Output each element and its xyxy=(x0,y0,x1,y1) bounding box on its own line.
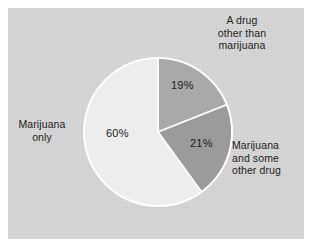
slice-label-marijuana-only: Marijuana only xyxy=(4,118,80,143)
slice-label-mixed-drug: Marijuana and some other drug xyxy=(232,139,310,177)
slice-label-other-drug: A drug other than marijuana xyxy=(186,14,298,52)
slice-value-other-drug: 19% xyxy=(171,79,194,91)
pie-chart-figure: A drug other than marijuana Marijuana an… xyxy=(0,0,314,249)
slice-value-marijuana-only: 60% xyxy=(106,127,129,139)
slice-value-mixed-drug: 21% xyxy=(190,137,213,149)
